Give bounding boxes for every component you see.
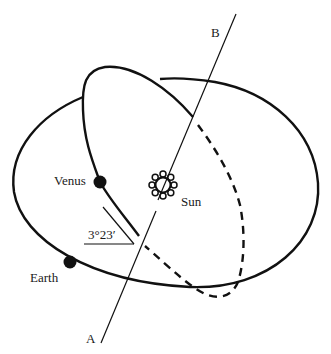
earth-planet-icon: [64, 256, 77, 269]
sun-icon: [149, 171, 177, 199]
label-earth: Earth: [30, 270, 59, 285]
venus-orbit-dashed: [145, 125, 244, 297]
label-sun: Sun: [181, 194, 202, 209]
label-venus: Venus: [54, 173, 86, 188]
label-axis-b: B: [211, 25, 220, 40]
line-of-nodes-upper: [158, 14, 236, 200]
venus-planet-icon: [94, 176, 107, 189]
label-angle: 3°23′: [88, 227, 116, 242]
venus-orbit-solid: [83, 67, 193, 236]
venus-orbit-diagram: B Venus Sun 3°23′ Earth A: [0, 0, 331, 354]
label-axis-a: A: [86, 331, 96, 346]
